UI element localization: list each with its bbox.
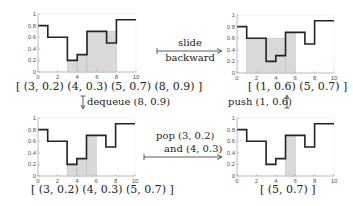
arrow-right-icon (0, 0, 353, 206)
